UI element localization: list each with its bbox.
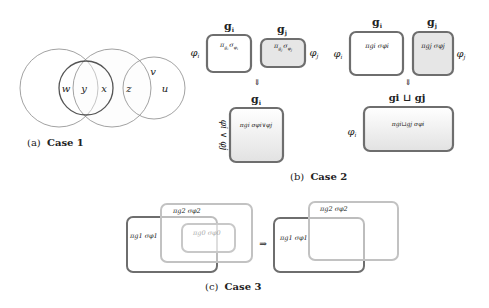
- down-arrow-icon: ⇓: [254, 78, 261, 87]
- case1-venn: w y x z v u: [20, 49, 185, 127]
- case3-after: πg1 σφ1 πg2 σφ2: [274, 202, 398, 272]
- merged-box-expr: πgi⊔gj σφi: [391, 120, 425, 128]
- phi-i-label: φi: [191, 47, 200, 59]
- case2-caption: (b) Case 2: [290, 171, 347, 182]
- box-g2-after-expr: πg2 σφ2: [319, 205, 348, 213]
- phi-i-label-right: φi: [334, 48, 343, 60]
- region-label-u: u: [162, 83, 168, 94]
- box-gj-right-expr: πgj σφj: [420, 42, 445, 50]
- case2-left: gi gj πgiσφi πgjσφj φi φj ⇓ gi πgi σφi∨φ…: [191, 20, 319, 162]
- box-g2-expr: πg2 σφ2: [172, 207, 201, 215]
- result-gi-title: gi: [251, 93, 262, 106]
- box-gj-title-right: gj: [427, 16, 437, 30]
- merged-title: gi ⊔ gj: [389, 92, 426, 103]
- box-g1-expr: πg1 σφ1: [129, 232, 158, 240]
- box-gj-title: gj: [277, 23, 287, 37]
- box-gi-title: gi: [224, 20, 235, 33]
- box-g0-expr: πg0 σφ0: [192, 229, 221, 237]
- region-label-v: v: [150, 66, 156, 77]
- result-box-gi: [230, 108, 283, 162]
- case1-caption: (a) Case 1: [27, 137, 84, 148]
- box-gj-right: [413, 32, 453, 75]
- right-arrow-icon: ⇒: [259, 239, 267, 249]
- region-label-z: z: [125, 83, 132, 94]
- region-label-w: w: [62, 83, 71, 94]
- region-label-y: y: [80, 83, 87, 94]
- case3-caption: (c) Case 3: [205, 281, 262, 292]
- box-gi-right: [350, 32, 403, 75]
- merged-side-label: φi: [348, 126, 357, 138]
- result-side-label: φi ∨ φj: [219, 120, 229, 151]
- box-gi-right-expr: πgi σφi: [364, 42, 389, 50]
- case3-before: πg1 σφ1 πg2 σφ2 πg0 σφ0: [127, 204, 252, 272]
- case2-right: gi gj πgi σφi πgj σφj φi φj ⇓ gi ⊔ gj πg…: [334, 16, 466, 151]
- phi-j-label-right: φj: [457, 48, 466, 61]
- phi-j-label: φj: [310, 47, 319, 60]
- region-label-x: x: [101, 83, 107, 94]
- box-gi-title-right: gi: [372, 16, 383, 29]
- result-box-expr: πgi σφi∨φj: [239, 121, 272, 129]
- diagram-svg: w y x z v u (a) Case 1 gi gj πgiσφi πgjσ…: [0, 0, 489, 308]
- box-g1-after-expr: πg1 σφ1: [279, 234, 308, 242]
- figure-canvas: w y x z v u (a) Case 1 gi gj πgiσφi πgjσ…: [0, 0, 489, 308]
- down-arrow-icon-right: ⇓: [405, 78, 412, 87]
- merged-box: [364, 107, 453, 151]
